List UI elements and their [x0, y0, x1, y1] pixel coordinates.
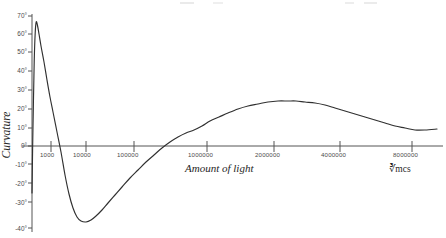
curvature-line-chart: 70° 60° 50° 40° 30° 20° 10° 0° -10° -20°…: [0, 0, 446, 238]
y-tick-label-neg40: -40°: [15, 225, 27, 232]
x-axis-unit-group: ∛mcs: [389, 163, 411, 174]
y-tick-label-10: 10°: [17, 124, 27, 131]
x-tick-label-2000000: 2000000: [255, 151, 281, 158]
axis-lines: [22, 14, 443, 232]
y-tick-label-60: 60°: [17, 30, 27, 37]
y-tick-label-0: 0°: [21, 142, 28, 149]
x-tick-label-1000000: 1000000: [188, 151, 214, 158]
y-axis-title: Curvature: [0, 112, 12, 159]
x-axis-unit-label: ∛mcs: [389, 163, 411, 174]
y-tick-label-50: 50°: [17, 48, 27, 55]
chart-figure: 70° 60° 50° 40° 30° 20° 10° 0° -10° -20°…: [0, 0, 446, 238]
y-tick-label-neg10: -10°: [15, 161, 27, 168]
y-tick-label-neg30: -30°: [15, 199, 27, 206]
scan-artifacts: [180, 2, 377, 4]
y-axis-tick-labels: 70° 60° 50° 40° 30° 20° 10° 0° -10° -20°…: [15, 12, 27, 232]
x-axis-tick-labels: 1000 10000 100000 1000000 2000000 400000…: [40, 151, 419, 158]
y-tick-label-70: 70°: [17, 12, 27, 19]
x-tick-label-1000: 1000: [40, 151, 55, 158]
y-tick-label-neg20: -20°: [15, 180, 27, 187]
x-tick-label-8000000: 8000000: [393, 151, 419, 158]
curvature-data-curve: [32, 22, 437, 222]
x-axis-title: Amount of light: [184, 162, 254, 174]
y-tick-label-40: 40°: [17, 67, 27, 74]
x-tick-label-100000: 100000: [117, 151, 139, 158]
y-tick-label-20: 20°: [17, 105, 27, 112]
y-axis-ticks: [28, 16, 32, 228]
x-tick-label-4000000: 4000000: [321, 151, 347, 158]
x-tick-label-10000: 10000: [73, 151, 91, 158]
y-tick-label-30: 30°: [17, 86, 27, 93]
